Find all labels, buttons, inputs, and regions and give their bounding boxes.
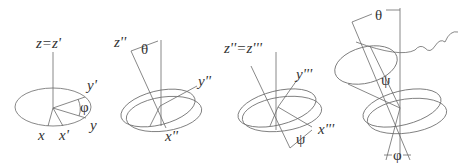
panel-2: z'' θ y'' x'': [113, 34, 212, 144]
y-dprime-label: y'': [196, 73, 212, 89]
theta-label: θ: [375, 7, 382, 23]
y-dprime-axis: [160, 86, 197, 106]
z-dprime-eq-z-tprime-label: z''=z''': [223, 40, 263, 56]
y-tprime-label: y''': [294, 66, 313, 82]
panel-1: z=z' φ y' y x x': [15, 35, 98, 143]
theta-label: θ: [141, 41, 148, 57]
z-axis-label: z=z': [35, 35, 62, 51]
x-prime-label: x': [58, 127, 70, 143]
panel-3: z''=z''' ψ y''' x''': [223, 40, 335, 148]
rotated-plane-ellipse: [117, 82, 199, 133]
original-plane-ellipse: [365, 94, 449, 139]
cone-edge-2: [348, 84, 400, 108]
euler-angle-diagram: z=z' φ y' y x x' z'' θ y'' x'' z''=z''': [0, 0, 467, 165]
phi-label: φ: [393, 147, 402, 163]
original-plane-ellipse: [240, 92, 324, 137]
y-label: y: [88, 117, 97, 133]
z-dprime-label: z'': [113, 34, 127, 50]
phi-label: φ: [80, 99, 89, 115]
psi-label: ψ: [381, 72, 391, 88]
x-label: x: [37, 127, 45, 143]
y-prime-label: y': [85, 77, 98, 93]
y-tprime-axis: [278, 80, 297, 107]
panel-4: θ ψ φ: [330, 7, 458, 163]
diagram-canvas: z=z' φ y' y x x' z'' θ y'' x'' z''=z''': [0, 0, 467, 165]
theta-bracket-left: [352, 14, 372, 22]
x-dprime-label: x'': [164, 128, 179, 144]
x-axis: [48, 108, 53, 126]
psi-label: ψ: [296, 131, 306, 147]
precession-cone-ellipse: [330, 39, 401, 90]
x-tprime-label: x''': [317, 121, 335, 137]
x-axis-line: [150, 106, 160, 126]
z-tprime-axis: [251, 66, 290, 148]
x-dprime-line: [270, 107, 278, 126]
